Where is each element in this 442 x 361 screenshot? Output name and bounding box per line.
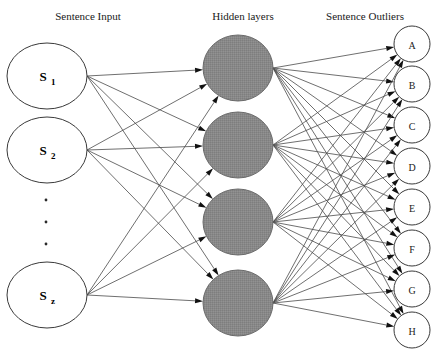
output-layer-nodes: ABCDEFGH <box>394 26 430 348</box>
edge-h2-out-a-arrowhead <box>389 55 397 62</box>
output-node-label-out-c: C <box>409 121 416 132</box>
input-header: Sentence Input <box>55 10 121 22</box>
edge-sz-h3-arrowhead <box>198 236 206 242</box>
hidden-header: Hidden layers <box>212 10 273 22</box>
edge-h4-out-e <box>273 222 391 303</box>
edge-h2-out-f <box>273 145 391 233</box>
edge-h1-out-f-arrowhead <box>394 226 401 234</box>
edge-h3-out-d-arrowhead <box>387 173 395 178</box>
edge-sz-h4 <box>87 295 195 301</box>
input-node-subscript-sz: z <box>51 296 55 306</box>
edge-sz-h3 <box>87 240 199 295</box>
edges-hidden-to-output <box>273 46 404 328</box>
edge-h1-out-d <box>273 68 391 151</box>
hidden-node-h4 <box>203 270 273 336</box>
edge-h2-out-f-arrowhead <box>390 231 398 238</box>
edge-s2-h2-arrowhead <box>195 144 203 149</box>
edge-sz-h1-arrowhead <box>212 95 218 103</box>
input-node-label-s2: S <box>39 143 46 158</box>
edge-h2-out-d-arrowhead <box>386 160 394 165</box>
edge-h3-out-f <box>273 222 386 243</box>
edge-h2-out-e-arrowhead <box>387 194 395 200</box>
edge-h3-out-b <box>273 102 394 222</box>
neural-network-diagram: S1S2Sz ABCDEFGH Sentence InputHidden lay… <box>0 0 442 361</box>
edge-s2-h1-arrowhead <box>199 84 207 90</box>
hidden-node-h2 <box>203 112 273 178</box>
edge-h2-out-b-arrowhead <box>387 91 395 97</box>
edge-h4-out-h <box>273 303 386 325</box>
ellipsis-dot-1 <box>45 199 48 202</box>
edge-s1-h2-arrowhead <box>198 126 206 132</box>
edge-h2-out-c-arrowhead <box>386 126 394 131</box>
edge-h3-out-g-arrowhead <box>387 275 395 281</box>
hidden-node-h3 <box>203 189 273 255</box>
network-canvas: S1S2Sz ABCDEFGH Sentence InputHidden lay… <box>0 0 442 361</box>
output-node-label-out-f: F <box>409 244 415 255</box>
output-node-label-out-e: E <box>409 203 415 214</box>
ellipsis-dot-3 <box>45 243 48 246</box>
edge-s1-h4 <box>87 76 214 269</box>
input-node-s1 <box>7 43 87 109</box>
edge-sz-h1 <box>87 102 214 295</box>
edge-h1-out-a-arrowhead <box>386 46 394 51</box>
output-node-label-out-a: A <box>408 40 416 51</box>
edge-s2-h4 <box>87 150 208 274</box>
input-node-subscript-s2: 2 <box>51 151 56 161</box>
input-node-s2 <box>7 117 87 183</box>
edge-h4-out-h-arrowhead <box>386 323 394 328</box>
output-node-label-out-b: B <box>409 80 416 91</box>
input-layer-nodes: S1S2Sz <box>7 43 87 328</box>
edge-h3-out-d <box>273 176 388 222</box>
edge-s2-h3-arrowhead <box>198 202 206 208</box>
edge-s2-h3 <box>87 150 199 204</box>
edge-s2-h1 <box>87 88 200 150</box>
edge-h4-out-f-arrowhead <box>387 255 395 260</box>
input-node-label-sz: S <box>39 288 46 303</box>
edge-h4-out-c-arrowhead <box>394 139 401 147</box>
edge-h2-out-c <box>273 129 386 145</box>
edge-h3-out-h <box>273 222 391 314</box>
column-headers: Sentence InputHidden layersSentence Outl… <box>55 10 404 22</box>
edge-h3-out-c-arrowhead <box>389 135 397 142</box>
output-node-label-out-d: D <box>408 162 415 173</box>
edge-h3-out-f-arrowhead <box>386 241 394 246</box>
ellipsis-dot-2 <box>45 221 48 224</box>
output-header: Sentence Outliers <box>326 10 404 22</box>
edge-h1-out-g <box>273 68 398 267</box>
input-node-sz <box>7 262 87 328</box>
hidden-layer-nodes <box>203 35 273 336</box>
edge-h1-out-a <box>273 48 386 68</box>
edge-h4-out-d <box>273 184 393 303</box>
edge-h1-out-b <box>273 68 386 81</box>
output-node-label-out-g: G <box>408 285 415 296</box>
edge-h4-out-g <box>273 292 386 303</box>
edges-input-to-hidden <box>87 68 219 304</box>
edge-h4-out-e-arrowhead <box>389 217 397 224</box>
edge-h3-out-a <box>273 64 396 222</box>
edge-sz-h4-arrowhead <box>195 298 203 303</box>
edge-h3-out-e-arrowhead <box>386 207 394 212</box>
input-node-label-s1: S <box>39 69 46 84</box>
edge-h4-out-f <box>273 258 388 303</box>
edge-h2-out-e <box>273 145 388 196</box>
edge-h3-out-g <box>273 222 389 278</box>
edge-s2-h2 <box>87 146 195 150</box>
edge-h4-out-a <box>273 67 400 303</box>
edge-s1-h1 <box>87 70 195 76</box>
edge-sz-h2 <box>87 174 208 295</box>
edge-s1-h4-arrowhead <box>212 267 218 275</box>
input-node-subscript-s1: 1 <box>51 77 56 87</box>
edge-h3-out-h-arrowhead <box>390 312 398 319</box>
edge-s1-h1-arrowhead <box>195 68 203 73</box>
edge-h2-out-d <box>273 145 386 162</box>
edge-h1-out-e <box>273 68 394 189</box>
output-node-label-out-h: H <box>408 326 415 337</box>
input-ellipsis <box>45 199 48 246</box>
hidden-node-h1 <box>203 35 273 101</box>
